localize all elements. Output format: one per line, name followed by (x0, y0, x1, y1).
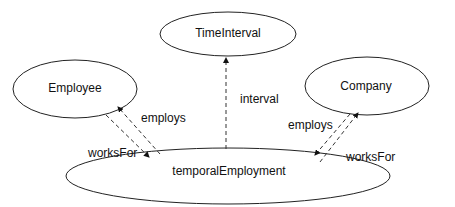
node-label-timeinterval: TimeInterval (195, 26, 261, 40)
edge-label-worksfor-left: worksFor (88, 146, 137, 160)
node-label-employee: Employee (48, 81, 101, 95)
node-label-temporalemployment: temporalEmployment (172, 164, 285, 178)
edge-label-interval: interval (240, 92, 279, 106)
edge-label-employs-left: employs (141, 111, 186, 125)
edge-label-worksfor-right: worksFor (346, 150, 395, 164)
edge-label-employs-right: employs (288, 118, 333, 132)
node-label-company: Company (340, 79, 391, 93)
ontology-diagram: TimeInterval Employee Company temporalEm… (0, 0, 455, 207)
